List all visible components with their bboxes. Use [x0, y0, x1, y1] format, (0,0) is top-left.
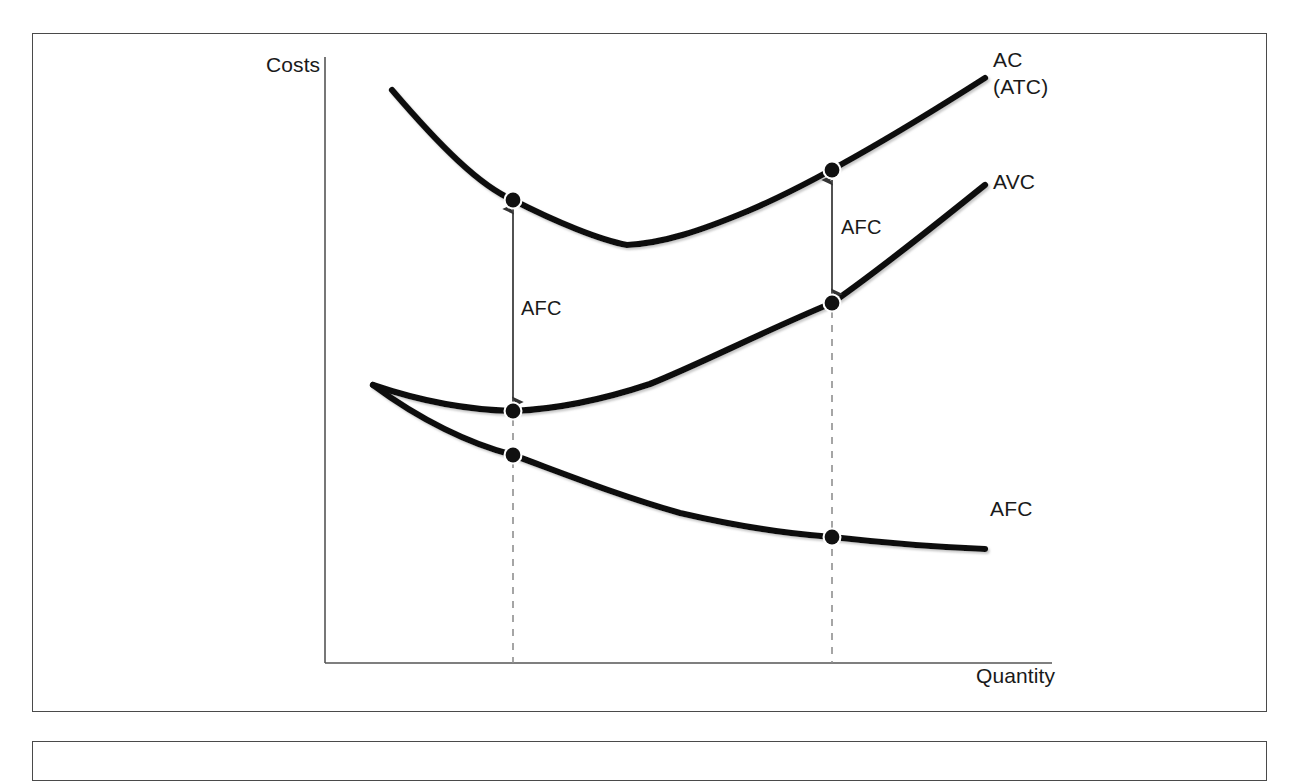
curve-label-afc: AFC: [990, 497, 1033, 521]
axis-group: [325, 57, 1052, 663]
point-avc-q1-dot: [506, 404, 521, 419]
next-figure-border-partial: [32, 741, 1267, 781]
curve-label-atc: (ATC): [993, 75, 1048, 99]
curve-label-avc: AVC: [993, 170, 1035, 194]
afc-gap-label-2: AFC: [841, 216, 882, 239]
dashed-guide-group: [513, 297, 832, 663]
point-afc-q2-dot: [825, 530, 840, 545]
point-ac-q1-dot: [506, 193, 521, 208]
curve-ac-atc: [392, 78, 985, 245]
afc-gap-arrow-group: [513, 180, 832, 402]
point-ac-q2-dot: [825, 163, 840, 178]
point-afc-q1-dot: [506, 448, 521, 463]
curve-label-ac: AC: [993, 48, 1023, 72]
curve-group: [373, 78, 985, 549]
afc-gap-label-1: AFC: [521, 297, 562, 320]
point-avc-q2-dot: [825, 296, 840, 311]
x-axis-label: Quantity: [976, 664, 1055, 688]
y-axis-label: Costs: [266, 53, 320, 77]
curve-avc: [373, 185, 985, 411]
